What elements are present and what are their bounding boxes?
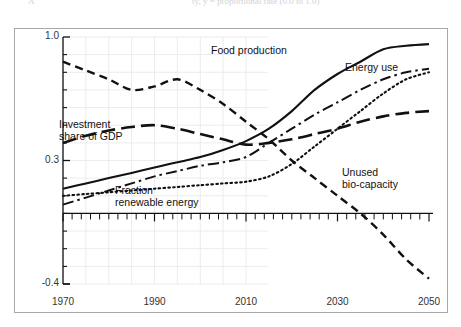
series-label-unused-biocapacity-line2: bio-capacity [342,178,398,190]
x-tick-label-1990: 1990 [139,296,171,307]
series-label-fraction-renewable-line1: Fraction [115,184,153,196]
x-tick-label-2010: 2010 [230,296,262,307]
cut-off-caption-left: A [28,0,35,6]
figure-stage: A ty, y = proportional rate (0.0 to 1.0)… [0,0,461,327]
x-tick-label-1970: 1970 [47,296,79,307]
y-tick-label--0-4: -0.4 [33,277,59,288]
cut-off-caption-right: ty, y = proportional rate (0.0 to 1.0) [192,0,319,6]
series-label-investment-share-line1: Investment [59,118,110,130]
y-tick-label-1-0: 1.0 [33,30,59,41]
series-label-energy-use: Energy use [345,61,398,73]
series-label-food-production: Food production [211,44,287,56]
series-label-fraction-renewable-line2: renewable energy [115,196,198,208]
x-tick-label-2030: 2030 [322,296,354,307]
series-label-investment-share-line2: share of GDP [59,130,123,142]
x-tick-label-2050: 2050 [413,296,445,307]
y-tick-label-0-3: 0.3 [33,154,59,165]
series-label-unused-biocapacity-line1: Unused [342,166,378,178]
cut-off-caption: A ty, y = proportional rate (0.0 to 1.0) [0,0,461,14]
figure-border: 1.00.3-0.4 19701990201020302050 Food pro… [14,28,448,313]
